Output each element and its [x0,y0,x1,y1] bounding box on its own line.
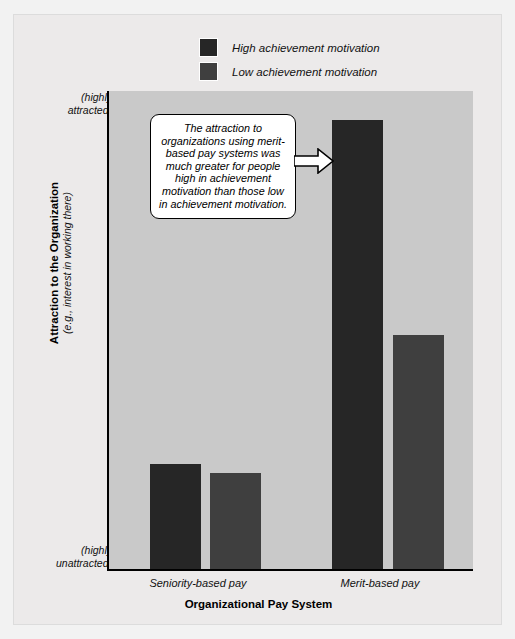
bar-seniority-high [150,464,201,569]
x-axis-title: Organizational Pay System [14,598,503,610]
bar-merit-high [332,120,383,569]
y-axis-bottom-caption-line1: (highly [34,544,112,557]
legend-item-high: High achievement motivation [199,37,459,58]
y-axis-title-group: Attraction to the Organization (e.g., in… [47,148,87,378]
legend-swatch-low-icon [199,62,218,81]
legend-label-high: High achievement motivation [232,42,380,54]
callout-box: The attraction to organizations using me… [150,114,296,219]
x-tick-merit: Merit-based pay [289,577,471,589]
plot-area: The attraction to organizations using me… [107,91,473,571]
figure-container: High achievement motivation Low achievem… [13,14,502,625]
legend-item-low: Low achievement motivation [199,61,459,82]
y-axis-top-caption-line2: attracted) [34,104,112,117]
y-axis-title: Attraction to the Organization [47,148,61,378]
y-axis-top-caption: (highly attracted) [34,91,112,116]
bar-merit-low [393,335,444,569]
y-axis-bottom-caption: (highly unattracted) [34,544,112,569]
chart-legend: High achievement motivation Low achievem… [199,37,459,85]
legend-swatch-high-icon [199,38,218,57]
y-axis-top-caption-line1: (highly [34,91,112,104]
callout-arrow-icon [294,148,334,174]
y-axis-bottom-caption-line2: unattracted) [34,557,112,570]
x-tick-seniority: Seniority-based pay [107,577,289,589]
y-axis-subtitle: (e.g., interest in working there) [61,148,74,378]
legend-label-low: Low achievement motivation [232,66,377,78]
bar-seniority-low [210,473,261,569]
